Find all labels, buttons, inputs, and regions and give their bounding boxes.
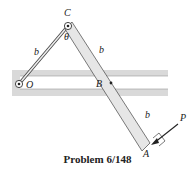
slot-guide xyxy=(12,70,168,96)
label-p: P xyxy=(179,112,186,123)
pin-b xyxy=(110,82,113,85)
label-b-cb: b xyxy=(99,44,104,55)
label-c: C xyxy=(64,7,71,18)
label-theta: θ xyxy=(64,31,69,42)
pin-o xyxy=(15,80,22,87)
label-b-ba: b xyxy=(145,109,150,120)
label-o: O xyxy=(26,79,33,90)
problem-caption: Problem 6/148 xyxy=(0,153,195,165)
label-b: B xyxy=(96,78,102,89)
label-b-oc: b xyxy=(34,46,39,57)
pin-c xyxy=(64,22,71,29)
mechanism-diagram: C θ b b O B b A P xyxy=(0,0,195,177)
